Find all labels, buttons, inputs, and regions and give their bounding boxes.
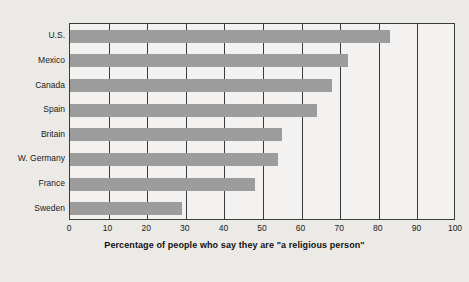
category-axis-labels: U.S.MexicoCanadaSpainBritainW. GermanyFr…	[0, 23, 65, 220]
x-tick-label: 60	[296, 223, 305, 234]
x-tick-label: 100	[448, 223, 462, 234]
gridline-50	[263, 24, 264, 219]
category-label: W. Germany	[0, 153, 65, 163]
x-axis-caption: Percentage of people who say they are "a…	[0, 240, 469, 250]
x-tick-label: 0	[67, 223, 72, 234]
bar	[70, 202, 182, 215]
bar	[70, 79, 332, 92]
category-label: U.S.	[0, 30, 65, 40]
gridline-80	[379, 24, 380, 219]
clipped-chart-title	[0, 0, 469, 2]
gridline-60	[302, 24, 303, 219]
bar	[70, 128, 282, 141]
plot-area	[69, 23, 455, 220]
category-label: Canada	[0, 80, 65, 90]
category-label: Sweden	[0, 203, 65, 213]
bar	[70, 153, 278, 166]
x-tick-label: 80	[373, 223, 382, 234]
x-tick-label: 10	[103, 223, 112, 234]
x-tick-label: 30	[180, 223, 189, 234]
category-label: Mexico	[0, 55, 65, 65]
bar	[70, 54, 348, 67]
bar	[70, 30, 390, 43]
x-tick-label: 50	[257, 223, 266, 234]
chart-figure: U.S.MexicoCanadaSpainBritainW. GermanyFr…	[0, 0, 469, 282]
gridline-90	[417, 24, 418, 219]
x-tick-label: 70	[334, 223, 343, 234]
x-tick-label: 40	[219, 223, 228, 234]
bar	[70, 104, 317, 117]
gridline-70	[340, 24, 341, 219]
bar	[70, 178, 255, 191]
category-label: Britain	[0, 129, 65, 139]
value-axis-tick-labels: 0102030405060708090100	[0, 223, 469, 237]
category-label: France	[0, 178, 65, 188]
x-tick-label: 90	[412, 223, 421, 234]
x-tick-label: 20	[141, 223, 150, 234]
category-label: Spain	[0, 104, 65, 114]
